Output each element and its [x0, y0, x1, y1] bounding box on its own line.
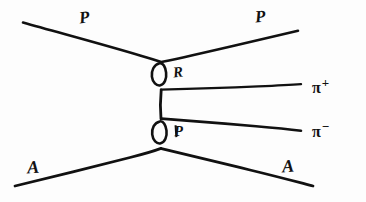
- proton-incoming-line: [23, 23, 162, 63]
- label-proton-outgoing: P: [254, 8, 266, 26]
- pomeron-glyph: P: [173, 124, 183, 140]
- label-pion-minus: π−: [312, 120, 330, 140]
- label-reggeon: R: [172, 65, 184, 81]
- upper-vertex-blob-icon: [152, 63, 166, 85]
- feynman-diagram-svg: [0, 0, 366, 202]
- pion-plus-symbol: π: [312, 79, 322, 96]
- label-nucleus-incoming: A: [26, 158, 39, 177]
- label-pion-plus: π+: [312, 76, 330, 96]
- lower-vertex-blob-icon: [152, 121, 167, 143]
- pion-minus-sign: −: [322, 119, 330, 134]
- proton-outgoing-line: [163, 31, 299, 62]
- pion-minus-symbol: π: [312, 123, 322, 140]
- label-proton-incoming: P: [78, 8, 90, 26]
- pion-plus-line: [161, 84, 301, 90]
- diagram-canvas: P P A A R P π+ π−: [0, 0, 366, 202]
- label-pomeron: P: [173, 124, 183, 140]
- exchange-vertical-line: [160, 90, 161, 119]
- pion-plus-sign: +: [322, 75, 330, 90]
- label-nucleus-outgoing: A: [281, 157, 295, 176]
